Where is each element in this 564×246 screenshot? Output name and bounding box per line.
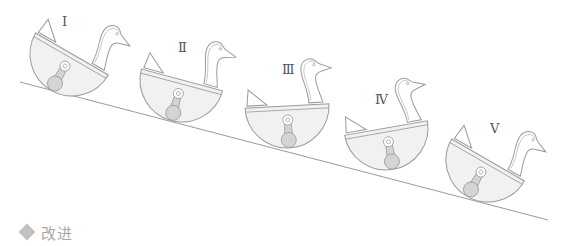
diamond-icon <box>19 224 36 241</box>
section-heading: 改进 <box>16 221 73 243</box>
section-title: 改进 <box>41 222 73 243</box>
duck-toy-1 <box>15 0 135 113</box>
duck-label-1: Ⅰ <box>62 14 67 29</box>
duck-toy-4 <box>337 75 439 177</box>
duck-toy-diagram: Ⅰ Ⅱ Ⅲ Ⅳ Ⅴ <box>0 0 564 246</box>
duck-label-5: Ⅴ <box>489 121 500 136</box>
duck-label-3: Ⅲ <box>282 62 295 77</box>
duck-toy-5 <box>431 99 551 219</box>
duck-label-2: Ⅱ <box>178 40 187 55</box>
duck-label-4: Ⅳ <box>375 92 389 107</box>
